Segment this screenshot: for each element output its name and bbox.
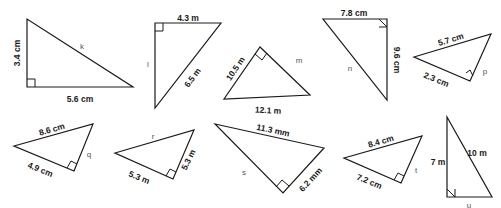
triangle-k: 3.4 cm5.6 cmk (12, 19, 133, 104)
side-length-label: 5.3 m (127, 169, 151, 187)
triangle-t: 8.4 cm7.2 cmt (344, 133, 422, 191)
side-length-label: 4.9 cm (26, 160, 55, 179)
triangle-q: 8.6 cm4.9 cmq (14, 121, 93, 179)
unknown-side-label: r (152, 132, 155, 141)
unknown-side-label: q (87, 150, 91, 159)
triangle-u: 7 m10 mu (431, 117, 492, 208)
side-length-label: 10.5 m (224, 54, 247, 82)
unknown-side-label: n (348, 64, 352, 73)
unknown-side-label: p (483, 67, 488, 76)
right-angle-marker-icon (155, 23, 163, 31)
triangle-outline (27, 19, 133, 87)
unknown-side-label: t (415, 166, 418, 175)
triangle-s: 11.3 mms6.2 mm (215, 122, 324, 194)
side-length-label: 5.3 m (179, 147, 198, 171)
side-length-label: 7 m (431, 157, 446, 167)
side-length-label: 10 m (467, 148, 487, 158)
right-angle-marker-icon (447, 189, 455, 197)
right-angle-marker-icon (379, 19, 387, 27)
triangle-outline (155, 23, 221, 108)
side-length-label: 5.6 cm (67, 94, 94, 104)
right-angle-marker-icon (255, 53, 267, 60)
triangle-outline (115, 130, 194, 179)
side-length-label: 3.4 cm (12, 39, 22, 66)
side-length-label: 6.2 mm (297, 165, 325, 194)
triangles-diagram: 3.4 cm5.6 cmk4.3 ml6.5 m10.5 mm12.1 m7.8… (0, 0, 501, 208)
unknown-side-label: m (296, 56, 303, 65)
side-length-label: 5.7 cm (437, 31, 466, 48)
side-length-label: 7.2 cm (355, 172, 384, 191)
side-length-label: 7.8 cm (341, 8, 368, 18)
side-length-label: 11.3 mm (256, 122, 291, 139)
unknown-side-label: l (147, 60, 149, 69)
side-length-label: 12.1 m (255, 105, 282, 116)
triangle-p: 5.7 cm2.3 cmp (414, 31, 491, 90)
unknown-side-label: s (242, 168, 246, 177)
unknown-side-label: u (467, 201, 471, 208)
side-length-label: 9.6 cm (392, 47, 402, 74)
right-angle-marker-icon (27, 79, 35, 87)
side-length-label: 2.3 cm (422, 70, 451, 89)
right-angle-marker-icon (276, 180, 289, 187)
triangle-l: 4.3 ml6.5 m (147, 13, 221, 108)
right-angle-marker-icon (466, 70, 473, 76)
side-length-label: 4.3 m (177, 13, 199, 23)
triangle-n: 7.8 cm9.6 cmn (323, 8, 402, 100)
triangle-m: 10.5 mm12.1 m (224, 47, 310, 116)
triangle-r: r5.3 m5.3 m (115, 130, 198, 186)
triangle-outline (323, 19, 387, 100)
unknown-side-label: k (80, 42, 85, 51)
